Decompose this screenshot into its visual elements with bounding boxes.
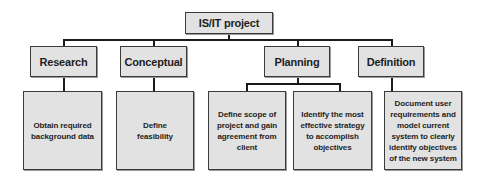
phase-label: Definition bbox=[367, 56, 416, 68]
root-node: IS/IT project bbox=[185, 12, 273, 34]
activity-label: Define scope of project and gain agreeme… bbox=[212, 109, 282, 153]
activity-node-definition: Document user requirements and model cur… bbox=[384, 91, 462, 170]
conceptual-down-stem bbox=[153, 77, 155, 91]
research-down-stem bbox=[63, 77, 65, 91]
activity-node-planning-scope: Define scope of project and gain agreeme… bbox=[208, 91, 286, 170]
planning-sub-bus bbox=[246, 83, 341, 85]
phase-label: Conceptual bbox=[125, 56, 183, 68]
root-label: IS/IT project bbox=[199, 17, 259, 29]
phase-label: Research bbox=[40, 56, 88, 68]
activity-label: Define feasibility bbox=[119, 120, 191, 142]
activity-node-research: Obtain required background data bbox=[23, 91, 102, 170]
activity-node-planning-strategy: Identify the most effective strategy to … bbox=[293, 91, 372, 170]
phase-label: Planning bbox=[275, 56, 320, 68]
planning-right-stem bbox=[339, 83, 341, 91]
planning-left-stem bbox=[246, 83, 248, 91]
activity-label: Identify the most effective strategy to … bbox=[297, 109, 368, 153]
phase-node-research: Research bbox=[30, 46, 97, 77]
phase-node-planning: Planning bbox=[264, 46, 330, 77]
activity-label: Obtain required background data bbox=[27, 120, 98, 142]
definition-down-stem bbox=[391, 77, 393, 91]
activity-node-conceptual: Define feasibility bbox=[116, 91, 194, 170]
activity-label: Document user requirements and model cur… bbox=[388, 98, 458, 164]
phase-node-definition: Definition bbox=[358, 46, 424, 77]
phase-bus bbox=[63, 39, 393, 41]
phase-node-conceptual: Conceptual bbox=[120, 46, 187, 77]
